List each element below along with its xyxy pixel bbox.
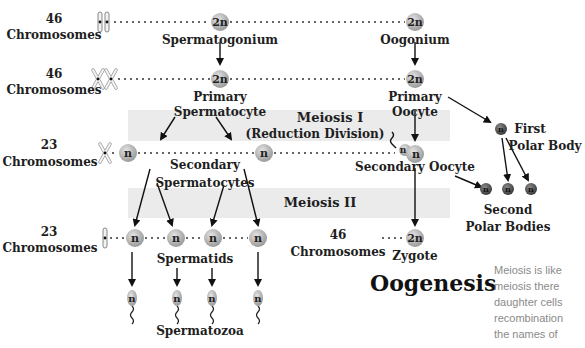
oogenesis-title: Oogenesis — [370, 270, 496, 296]
secondary-spermatocytes-label-2: Spermatocytes — [145, 176, 265, 191]
svg-text:2n: 2n — [212, 73, 228, 86]
zygote-row-unit: Chromosomes — [288, 245, 388, 260]
svg-text:n: n — [172, 232, 180, 245]
side-paragraph: Meiosis is like meiosis there daughter c… — [494, 262, 584, 342]
spermatids-label: Spermatids — [140, 252, 250, 267]
side-line: meiosis there — [494, 278, 584, 294]
svg-text:2n: 2n — [407, 16, 423, 29]
svg-text:2n: 2n — [407, 73, 423, 86]
svg-text:n: n — [528, 184, 534, 194]
row4-count: 23 — [29, 225, 69, 240]
primary-oocyte-label-1: Primary — [375, 90, 455, 105]
second-polar-bodies-label-2: Polar Bodies — [458, 220, 558, 235]
meiosis-1-label: Meiosis I — [270, 110, 390, 125]
svg-text:n: n — [124, 147, 132, 160]
row1-count: 46 — [34, 12, 74, 27]
svg-text:2n: 2n — [407, 232, 423, 245]
svg-text:2n: 2n — [212, 16, 228, 29]
zygote-row-count: 46 — [318, 228, 358, 243]
svg-text:n: n — [254, 232, 262, 245]
side-line: the names of — [494, 326, 584, 342]
side-line: daughter cells — [494, 294, 584, 310]
meiosis-2-label: Meiosis II — [260, 195, 380, 210]
svg-text:n: n — [483, 184, 489, 194]
zygote-label: Zygote — [385, 249, 445, 264]
row2-count: 46 — [34, 67, 74, 82]
primary-spermatocyte-label-1: Primary — [180, 90, 260, 105]
row3-count: 23 — [29, 138, 69, 153]
first-polar-body-label-1: First — [500, 122, 560, 137]
first-polar-body-label-2: Polar Body — [505, 139, 585, 154]
meiosis-1-sublabel: (Reduction Division) — [240, 127, 390, 142]
row2-unit: Chromosomes — [4, 83, 104, 98]
primary-spermatocyte-label-2: Spermatocyte — [150, 105, 290, 120]
row4-unit: Chromosomes — [0, 241, 100, 256]
svg-text:n: n — [173, 293, 181, 304]
svg-text:n: n — [260, 147, 268, 160]
svg-text:n: n — [254, 293, 262, 304]
svg-text:n: n — [505, 184, 511, 194]
svg-text:n: n — [208, 293, 216, 304]
side-line: Meiosis is like — [494, 262, 584, 278]
oogonium-label: Oogonium — [375, 33, 455, 48]
spermatozoa-label: Spermatozoa — [140, 324, 260, 339]
row1-unit: Chromosomes — [4, 28, 104, 43]
svg-text:n: n — [400, 145, 407, 155]
second-polar-bodies-label-1: Second — [468, 203, 548, 218]
chromosome-icons — [93, 12, 116, 248]
secondary-spermatocytes-label-1: Secondary — [155, 158, 255, 173]
spermatogonium-label: Spermatogonium — [160, 33, 280, 48]
svg-text:n: n — [128, 293, 136, 304]
side-line: recombination — [494, 310, 584, 326]
svg-text:n: n — [131, 232, 139, 245]
secondary-oocyte-label: Secondary Oocyte — [355, 160, 475, 175]
svg-text:n: n — [209, 232, 217, 245]
row3-unit: Chromosomes — [0, 155, 100, 170]
sperm-tails — [131, 306, 260, 324]
